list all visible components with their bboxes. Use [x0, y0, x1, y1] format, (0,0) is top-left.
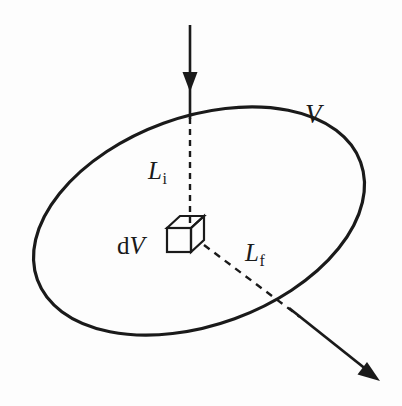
volume-element-prefix: d: [117, 232, 130, 259]
incoming-path-symbol: L: [148, 157, 162, 184]
cube-front-face: [167, 228, 191, 252]
volume-label: V: [305, 101, 322, 128]
figure-canvas: [0, 0, 402, 406]
outgoing-path-subscript: f: [259, 252, 265, 269]
cube-right-face: [191, 216, 204, 252]
volume-element-label: dV: [117, 233, 145, 258]
volume-label-symbol: V: [305, 99, 322, 129]
incoming-path-label: Li: [148, 158, 167, 187]
volume-element-symbol: V: [130, 232, 145, 259]
radiative-transfer-figure: V Li Lf dV: [0, 0, 402, 406]
outgoing-path-label: Lf: [245, 240, 265, 269]
outgoing-path-symbol: L: [245, 239, 259, 266]
volume-element-cube: [167, 216, 204, 252]
incoming-path-subscript: i: [162, 170, 167, 187]
outgoing-ray-shaft: [289, 308, 372, 374]
incoming-ray-arrowhead: [183, 72, 198, 92]
